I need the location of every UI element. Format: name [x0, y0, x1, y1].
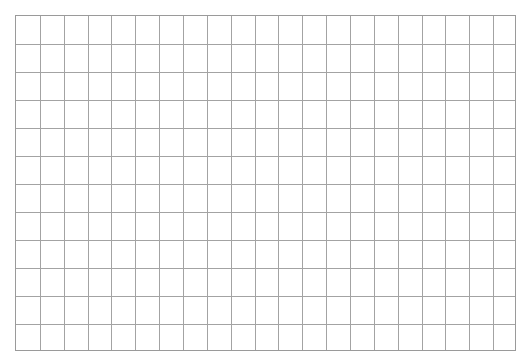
grid-vertical-line: [159, 16, 160, 350]
grid-vertical-line: [40, 16, 41, 350]
grid-vertical-line: [278, 16, 279, 350]
grid-horizontal-line: [16, 324, 515, 325]
grid-vertical-line: [111, 16, 112, 350]
grid-vertical-line: [374, 16, 375, 350]
grid-vertical-line: [350, 16, 351, 350]
grid-vertical-line: [88, 16, 89, 350]
grid-vertical-line: [493, 16, 494, 350]
grid-vertical-line: [183, 16, 184, 350]
grid-vertical-line: [445, 16, 446, 350]
grid-horizontal-line: [16, 184, 515, 185]
grid-vertical-line: [326, 16, 327, 350]
grid-vertical-line: [255, 16, 256, 350]
grid-horizontal-line: [16, 156, 515, 157]
grid-horizontal-line: [16, 128, 515, 129]
grid-horizontal-line: [16, 212, 515, 213]
grid-paper: [15, 15, 516, 351]
grid-vertical-line: [64, 16, 65, 350]
grid-horizontal-line: [16, 44, 515, 45]
grid-vertical-line: [422, 16, 423, 350]
grid-horizontal-line: [16, 296, 515, 297]
grid-vertical-line: [207, 16, 208, 350]
grid-vertical-line: [231, 16, 232, 350]
grid-horizontal-line: [16, 240, 515, 241]
grid-vertical-line: [398, 16, 399, 350]
grid-horizontal-line: [16, 72, 515, 73]
grid-vertical-line: [135, 16, 136, 350]
grid-horizontal-line: [16, 100, 515, 101]
grid-vertical-line: [469, 16, 470, 350]
grid-horizontal-line: [16, 268, 515, 269]
grid-vertical-line: [302, 16, 303, 350]
